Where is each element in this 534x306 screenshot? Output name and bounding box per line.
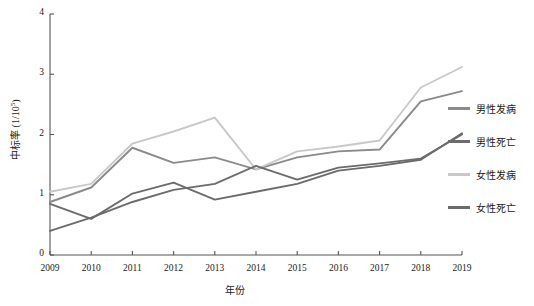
y-axis-label-base: 中标率 (1/10 <box>10 107 21 161</box>
y-axis-label-exponent: 5 <box>8 103 16 107</box>
x-tick-label: 2017 <box>360 263 400 273</box>
x-tick-label: 2019 <box>442 263 482 273</box>
line-chart: 中标率 (1/105) 年份 0123420092010201120122013… <box>0 0 534 306</box>
legend-item: 女性死亡 <box>448 197 534 218</box>
y-tick-label: 3 <box>28 67 44 77</box>
legend-label: 女性死亡 <box>476 200 516 215</box>
legend-item: 男性发病 <box>448 98 534 119</box>
legend-swatch <box>448 206 470 209</box>
legend-swatch <box>448 140 470 143</box>
x-tick-label: 2015 <box>277 263 317 273</box>
y-tick-label: 2 <box>28 128 44 138</box>
data-series-group <box>50 67 462 231</box>
series-line <box>50 91 462 202</box>
x-tick-label: 2013 <box>195 263 235 273</box>
y-tick-label: 4 <box>28 7 44 17</box>
x-tick-label: 2011 <box>112 263 152 273</box>
x-tick-label: 2014 <box>236 263 276 273</box>
x-tick-label: 2010 <box>71 263 111 273</box>
y-axis-label-tail: ) <box>10 100 21 103</box>
series-line <box>50 135 462 231</box>
legend-item: 女性发病 <box>448 164 534 185</box>
y-axis-label: 中标率 (1/105) <box>2 0 28 260</box>
y-tick-label: 1 <box>28 188 44 198</box>
legend-label: 女性发病 <box>476 167 516 182</box>
legend-item: 男性死亡 <box>448 131 534 152</box>
y-axis-ticks <box>50 14 54 255</box>
x-tick-label: 2009 <box>30 263 70 273</box>
legend-swatch <box>448 107 470 110</box>
legend-label: 男性发病 <box>476 101 516 116</box>
legend-swatch <box>448 173 470 176</box>
x-axis-label: 年份 <box>0 282 470 297</box>
x-tick-label: 2012 <box>154 263 194 273</box>
legend-label: 男性死亡 <box>476 134 516 149</box>
y-tick-label: 0 <box>28 248 44 258</box>
series-line <box>50 133 462 219</box>
chart-legend: 男性发病男性死亡女性发病女性死亡 <box>448 98 534 230</box>
series-line <box>50 67 462 192</box>
x-axis-ticks <box>50 251 462 255</box>
x-tick-label: 2018 <box>401 263 441 273</box>
x-tick-label: 2016 <box>318 263 358 273</box>
axis-lines <box>50 14 462 255</box>
